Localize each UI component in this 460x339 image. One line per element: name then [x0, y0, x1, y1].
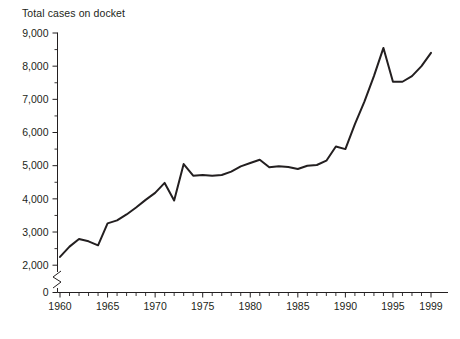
- chart-canvas: 9,0008,0007,0006,0005,0004,0003,0002,000…: [0, 0, 460, 339]
- y-axis-tick-label: 7,000: [22, 93, 48, 105]
- x-axis-tick-labels: 196019651970197519801985199019951999: [48, 300, 443, 312]
- x-axis-tick-label: 1970: [143, 300, 167, 312]
- y-axis-tick-label: 5,000: [22, 159, 48, 171]
- y-axis-tick-label: 9,000: [22, 27, 48, 39]
- axis-break-icon: [53, 271, 61, 288]
- y-axis-tick-label: 6,000: [22, 126, 48, 138]
- y-axis-tick-label: 0: [43, 286, 49, 298]
- x-axis-tick-label: 1960: [48, 300, 72, 312]
- y-axis-tick-label: 4,000: [22, 193, 48, 205]
- line-chart: Total cases on docket 9,0008,0007,0006,0…: [0, 0, 460, 339]
- x-axis-tick-label: 1985: [286, 300, 310, 312]
- y-axis-tick-labels: 9,0008,0007,0006,0005,0004,0003,0002,000…: [22, 27, 48, 299]
- x-axis-minor-ticks: [60, 293, 431, 298]
- x-axis-tick-label: 1965: [96, 300, 120, 312]
- x-axis-tick-label: 1995: [381, 300, 405, 312]
- y-axis-tick-label: 8,000: [22, 60, 48, 72]
- y-axis-major-ticks: [53, 33, 58, 293]
- y-axis-tick-label: 2,000: [22, 259, 48, 271]
- x-axis-tick-label: 1975: [191, 300, 215, 312]
- y-axis-tick-label: 3,000: [22, 226, 48, 238]
- data-series-line: [60, 48, 431, 257]
- x-axis-tick-label: 1980: [239, 300, 263, 312]
- x-axis-tick-label: 1990: [334, 300, 358, 312]
- x-axis-tick-label: 1999: [419, 300, 443, 312]
